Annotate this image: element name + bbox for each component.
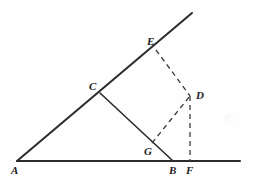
segment-ED	[156, 50, 190, 96]
ray-AE-oblique	[17, 13, 192, 161]
point-label-a: A	[11, 165, 18, 176]
geometry-canvas	[0, 0, 253, 188]
point-label-c: C	[89, 81, 96, 92]
point-label-d: D	[196, 90, 204, 101]
point-label-e: E	[147, 36, 154, 47]
geometry-figure: A B C D E F G ©	[0, 0, 253, 188]
dashed-lines	[152, 50, 190, 161]
segment-GD	[152, 96, 190, 143]
solid-lines	[17, 13, 240, 161]
point-label-f: F	[186, 165, 193, 176]
point-label-g: G	[144, 146, 152, 157]
point-label-b: B	[169, 165, 176, 176]
segment-CB	[100, 93, 173, 161]
